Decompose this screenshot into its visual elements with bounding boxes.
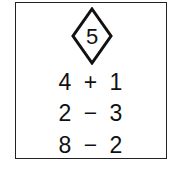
operator: − <box>84 100 98 126</box>
expression-row-1: 4 + 1 <box>15 69 167 95</box>
operand-left: 2 <box>59 100 73 126</box>
expression-row-2: 2 − 3 <box>15 100 167 126</box>
operand-left: 4 <box>59 69 73 95</box>
operand-right: 1 <box>110 69 124 95</box>
operand-right: 3 <box>110 100 124 126</box>
operand-right: 2 <box>110 132 124 158</box>
operator: − <box>84 132 98 158</box>
operator: + <box>84 69 98 95</box>
target-number: 5 <box>71 24 113 50</box>
operand-left: 8 <box>59 132 73 158</box>
expression-row-3: 8 − 2 <box>15 132 167 158</box>
